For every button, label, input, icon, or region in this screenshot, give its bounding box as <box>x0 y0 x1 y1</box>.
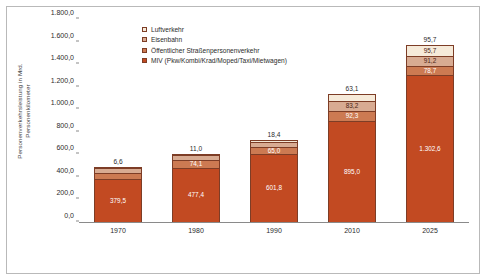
bar-segment[interactable]: 379,5 <box>94 179 142 222</box>
bar-segment-value: 92,3 <box>346 113 358 119</box>
bar-group[interactable]: 18,444,665,0601,818,41990 <box>250 140 298 222</box>
y-axis-tick-mark <box>76 85 79 86</box>
bar-segment[interactable]: 92,3 <box>328 111 376 121</box>
y-axis-tick-mark <box>76 130 79 131</box>
bar-segment-value: 1.302,6 <box>419 146 440 152</box>
y-axis-tick-mark <box>76 221 79 222</box>
y-axis-tick-label: 1.200,0 <box>51 76 74 83</box>
bar-segment-value: 83,2 <box>346 103 358 109</box>
y-axis-tick-label: 600,0 <box>56 144 74 151</box>
bar-segment-value: 895,0 <box>344 169 360 175</box>
bar-segment[interactable]: 63,1 <box>328 94 376 101</box>
bar-segment[interactable]: 895,0 <box>328 121 376 222</box>
bar-segment-value: 379,5 <box>110 198 126 204</box>
bar-segment[interactable]: 78,7 <box>406 66 454 75</box>
bar-group[interactable]: 63,183,292,3895,063,12010 <box>328 94 376 222</box>
bar-segment-value: 477,4 <box>188 192 204 198</box>
bar-segment[interactable]: 74,1 <box>172 160 220 168</box>
y-axis-tick-mark <box>76 63 79 64</box>
bar-total-label: 63,1 <box>346 85 359 92</box>
y-axis-tick-mark <box>76 40 79 41</box>
chart-frame: Personenverkehrsleistung in Mrd. Persone… <box>6 6 480 274</box>
bar-segment[interactable]: 65,0 <box>250 147 298 154</box>
bar-segment[interactable]: 83,2 <box>328 101 376 110</box>
bar-total-label: 6,6 <box>113 158 122 165</box>
y-axis-tick-mark <box>76 18 79 19</box>
axis-area: 1.800,01.600,01.400,01.200,01.000,0800,0… <box>79 19 469 223</box>
y-axis-tick-label: 0,0 <box>64 212 74 219</box>
y-axis-tick-label: 1.600,0 <box>51 31 74 38</box>
y-axis-tick-label: 1.400,0 <box>51 54 74 61</box>
bar-group[interactable]: 95,791,278,71.302,695,72025 <box>406 45 454 222</box>
y-axis-tick-label: 400,0 <box>56 166 74 173</box>
bar-group[interactable]: 6,637,258,4379,56,61970 <box>94 167 142 222</box>
plot-area: 1.800,01.600,01.400,01.200,01.000,0800,0… <box>79 19 469 245</box>
bar-segment-value: 78,7 <box>424 68 436 74</box>
y-axis-tick-label: 1.000,0 <box>51 99 74 106</box>
bar-segment[interactable]: 58,4 <box>94 173 142 180</box>
y-axis-tick-mark <box>76 198 79 199</box>
x-axis-tick-label: 1970 <box>110 227 126 234</box>
y-axis-tick-label: 800,0 <box>56 121 74 128</box>
y-axis-tick-label: 1.800,0 <box>51 9 74 16</box>
y-axis-tick-mark <box>76 153 79 154</box>
bar-total-label: 95,7 <box>424 36 437 43</box>
bar-segment[interactable]: 95,7 <box>406 45 454 56</box>
x-axis-tick-label: 2010 <box>344 227 360 234</box>
y-axis-title: Personenverkehrsleistung in Mrd. Persone… <box>16 36 32 186</box>
y-axis-tick-mark <box>76 108 79 109</box>
y-axis-tick-label: 200,0 <box>56 189 74 196</box>
bar-segment[interactable]: 91,2 <box>406 56 454 66</box>
bar-segment[interactable]: 1.302,6 <box>406 75 454 222</box>
bar-segment[interactable]: 477,4 <box>172 168 220 222</box>
bar-total-label: 11,0 <box>190 145 202 152</box>
x-axis-tick-label: 1990 <box>266 227 282 234</box>
bar-segment-value: 95,7 <box>424 48 436 54</box>
y-axis-tick-mark <box>76 175 79 176</box>
bar-segment-value: 91,2 <box>424 58 436 64</box>
x-axis-tick-label: 1980 <box>188 227 204 234</box>
bar-group[interactable]: 11,041,674,1477,411,01980 <box>172 154 220 222</box>
bar-segment[interactable]: 601,8 <box>250 154 298 222</box>
bar-segment-value: 601,8 <box>266 185 282 191</box>
bar-total-label: 18,4 <box>268 131 281 138</box>
bar-segment-value: 74,1 <box>190 161 202 167</box>
x-axis-tick-label: 2025 <box>422 227 438 234</box>
